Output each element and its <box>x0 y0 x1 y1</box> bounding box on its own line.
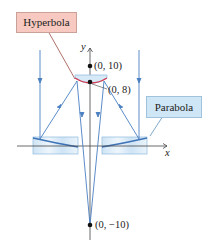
parabola-callout: Parabola <box>146 96 202 118</box>
point-bottom <box>88 223 93 228</box>
point-top <box>88 64 93 69</box>
point-top-label: (0, 10) <box>94 60 122 71</box>
x-axis-label: x <box>165 147 170 158</box>
y-axis-label: y <box>81 41 86 52</box>
hyperbola-callout-pointer <box>48 31 75 79</box>
vertex-leader <box>92 84 107 89</box>
telescope-diagram <box>0 0 202 250</box>
hyperbola-callout-label: Hyperbola <box>23 17 69 28</box>
point-vertex <box>88 80 93 85</box>
hyperbola-callout: Hyperbola <box>16 12 77 33</box>
parabola-callout-pointer <box>150 116 163 136</box>
parabola-callout-label: Parabola <box>155 102 193 113</box>
point-vertex-label: (0, 8) <box>108 84 131 95</box>
point-bottom-label: (0, −10) <box>95 219 129 230</box>
